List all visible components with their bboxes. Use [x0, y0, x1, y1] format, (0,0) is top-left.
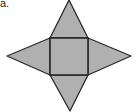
triangle-bottom	[50, 75, 88, 111]
triangle-left	[7, 38, 50, 75]
center-square	[50, 38, 88, 75]
triangle-right	[88, 38, 131, 75]
pyramid-net-diagram	[0, 0, 137, 112]
triangle-top	[50, 0, 88, 38]
